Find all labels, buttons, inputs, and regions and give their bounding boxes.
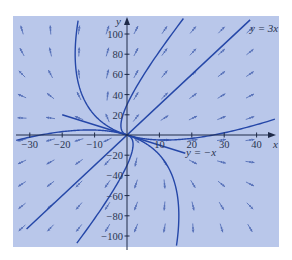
y-tick-label: −80 [107,211,123,222]
x-tick-label: 10 [154,139,165,150]
x-tick-label: 30 [219,139,230,150]
phase-portrait: −30−20−1010203040−100−80−60−40−202040608… [0,0,292,260]
y-tick-label: −60 [107,191,123,202]
x-tick-label: −20 [54,139,70,150]
y-tick-label: −100 [101,231,123,242]
y-tick-label: −20 [107,150,123,161]
x-tick-label: −10 [86,139,102,150]
label-y-equals-3x: y = 3x [249,22,278,34]
label-y-equals-neg-x: y = −x [185,146,216,158]
y-tick-label: 60 [113,69,124,80]
x-tick-label: 40 [251,139,262,150]
y-tick-label: 80 [113,49,124,60]
x-axis-label: x [272,138,278,150]
x-tick-label: −30 [22,139,38,150]
y-tick-label: 40 [113,90,124,101]
y-axis-label: y [115,15,121,27]
y-tick-label: 20 [113,110,124,121]
y-tick-label: −40 [107,170,123,181]
plot-background [13,16,279,247]
y-tick-label: 100 [107,29,123,40]
